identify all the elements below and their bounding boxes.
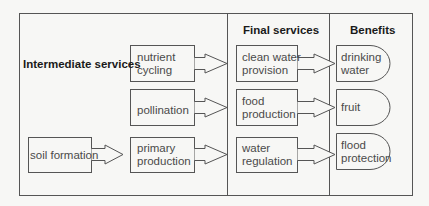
label-water: water [242,142,270,155]
label-flood: flood [341,139,366,152]
label-water-benefit: water [341,64,369,77]
label-provision: provision [242,64,288,77]
header-intermediate-services: Intermediate services [23,58,141,70]
label-pollination: pollination [137,104,189,117]
label-nutrient: nutrient [137,51,175,64]
header-benefits: Benefits [350,24,395,36]
label-drinking: drinking [341,51,381,64]
label-fruit: fruit [341,101,360,114]
label-clean-water: clean water [242,51,301,64]
label-regulation: regulation [242,155,293,168]
arrow-nutrient-to-clean [195,54,228,73]
label-production: production [137,155,191,168]
label-food: food [242,95,264,108]
label-protection: protection [341,152,392,165]
label-primary: primary [137,142,175,155]
label-cycling: cycling [137,64,172,77]
label-soil-formation: soil formation [30,149,98,162]
arrow-pollination-to-food [195,98,228,117]
label-food-production: production [242,108,296,121]
header-final-services: Final services [243,24,319,36]
arrow-primary-to-water [195,145,228,164]
